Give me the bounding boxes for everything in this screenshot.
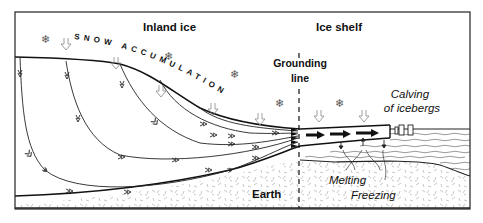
snowflake-icon: ❄: [335, 97, 344, 109]
snowflake-icon: ❄: [41, 33, 50, 45]
inland-ice-title: Inland ice: [143, 21, 196, 33]
ice-sheet-diagram: ❄ ❄ ❄ ❄ ❄ Inland ice Ice shelf SNOW ACCU…: [0, 0, 483, 223]
freezing-label: Freezing: [351, 189, 396, 201]
snowflake-icon: ❄: [275, 97, 284, 109]
snow-accumulation-label: SNOW ACCUMULATION: [74, 32, 229, 97]
grounding-line-label: Grounding: [273, 57, 327, 69]
calving-label-2: of icebergs: [384, 102, 441, 114]
snowflake-icon: ❄: [230, 68, 239, 80]
calving-label: Calving: [391, 88, 430, 100]
earth-label: Earth: [252, 188, 281, 200]
shelf-flow-arrows: [306, 129, 379, 139]
iceberg-blocks: [395, 125, 413, 135]
melting-label: Melting: [329, 174, 367, 186]
ice-flow-lines: [20, 57, 298, 187]
ice-surface-line: [15, 57, 390, 129]
grounding-line-label-2: line: [291, 72, 309, 84]
ice-shelf-title: Ice shelf: [316, 21, 362, 33]
